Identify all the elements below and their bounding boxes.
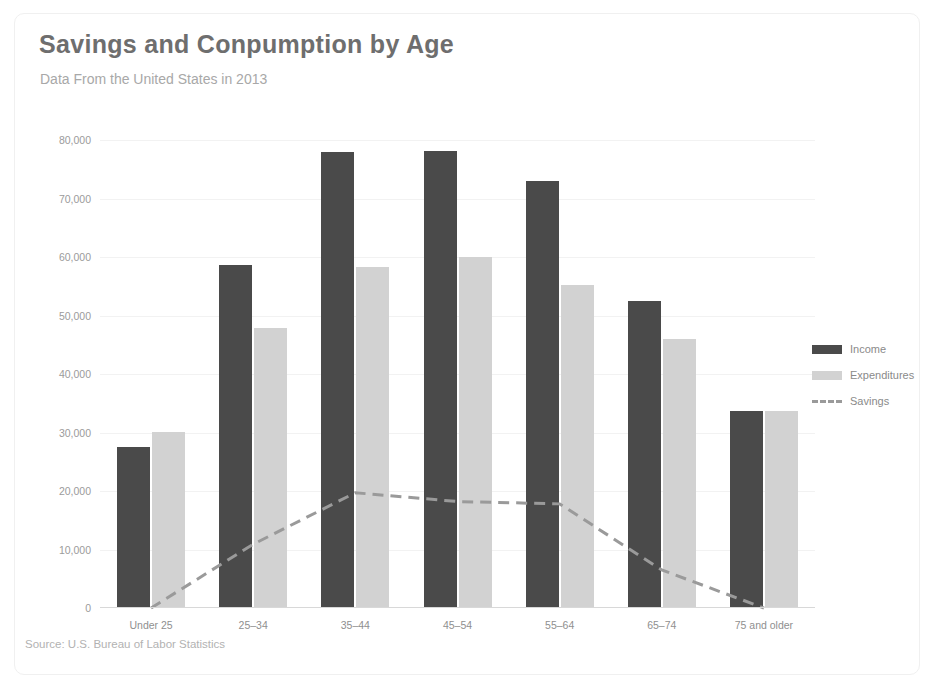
- bar-expenditures[interactable]: [765, 411, 798, 608]
- y-axis-tick-label: 40,000: [59, 368, 91, 380]
- bar-expenditures[interactable]: [561, 285, 594, 608]
- y-axis-tick-label: 50,000: [59, 310, 91, 322]
- axis-baseline: [100, 607, 815, 608]
- y-axis-tick-label: 60,000: [59, 251, 91, 263]
- bar-expenditures[interactable]: [254, 328, 287, 608]
- y-axis-tick-label: 80,000: [59, 134, 91, 146]
- y-axis-tick-label: 10,000: [59, 544, 91, 556]
- plot-area: 010,00020,00030,00040,00050,00060,00070,…: [100, 140, 815, 608]
- bar-income[interactable]: [424, 151, 457, 608]
- legend-item[interactable]: Income: [812, 336, 932, 362]
- legend-label: Savings: [850, 395, 889, 407]
- gridline: [100, 491, 815, 492]
- bar-income[interactable]: [628, 301, 661, 608]
- x-axis-tick-label: 55–64: [545, 619, 574, 631]
- bar-expenditures[interactable]: [663, 339, 696, 608]
- y-axis-tick-label: 70,000: [59, 193, 91, 205]
- bar-income[interactable]: [526, 181, 559, 608]
- bar-expenditures[interactable]: [356, 267, 389, 608]
- x-axis-tick-label: 65–74: [647, 619, 676, 631]
- legend-label: Income: [850, 343, 886, 355]
- chart-legend: IncomeExpendituresSavings: [812, 336, 932, 414]
- legend-dashed-line-icon: [812, 400, 842, 403]
- chart-subtitle: Data From the United States in 2013: [40, 71, 267, 87]
- legend-item[interactable]: Savings: [812, 388, 932, 414]
- gridline: [100, 316, 815, 317]
- x-axis-tick-label: 75 and older: [735, 619, 793, 631]
- legend-swatch-icon: [812, 371, 842, 380]
- y-axis-tick-label: 0: [85, 602, 91, 614]
- legend-swatch-icon: [812, 345, 842, 354]
- gridline: [100, 199, 815, 200]
- chart-title: Savings and Conpumption by Age: [39, 30, 454, 59]
- source-note: Source: U.S. Bureau of Labor Statistics: [25, 638, 225, 650]
- gridline: [100, 257, 815, 258]
- gridline: [100, 374, 815, 375]
- legend-label: Expenditures: [850, 369, 914, 381]
- bar-expenditures[interactable]: [152, 432, 185, 608]
- gridline: [100, 550, 815, 551]
- gridline: [100, 140, 815, 141]
- x-axis-tick-label: 45–54: [443, 619, 472, 631]
- y-axis-tick-label: 20,000: [59, 485, 91, 497]
- bar-income[interactable]: [219, 265, 252, 608]
- x-axis-tick-label: 35–44: [341, 619, 370, 631]
- y-axis-tick-label: 30,000: [59, 427, 91, 439]
- x-axis-tick-label: Under 25: [129, 619, 172, 631]
- bar-income[interactable]: [321, 152, 354, 608]
- x-axis-tick-label: 25–34: [239, 619, 268, 631]
- legend-item[interactable]: Expenditures: [812, 362, 932, 388]
- gridline: [100, 433, 815, 434]
- bar-income[interactable]: [117, 447, 150, 608]
- chart-card: Savings and Conpumption by Age Data From…: [14, 13, 920, 675]
- bar-expenditures[interactable]: [459, 257, 492, 608]
- bar-income[interactable]: [730, 411, 763, 608]
